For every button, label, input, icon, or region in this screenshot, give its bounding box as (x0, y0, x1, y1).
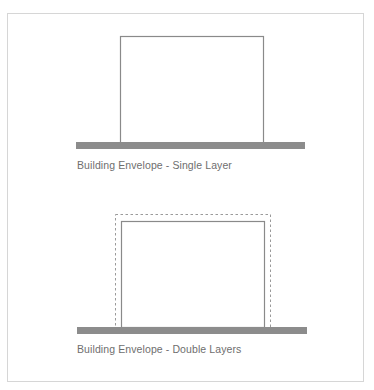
envelope-diagram (0, 0, 374, 390)
panel-single-layer (76, 37, 305, 150)
caption-double-layers: Building Envelope - Double Layers (77, 343, 241, 355)
ground-line (76, 142, 305, 149)
panel-double-layers (77, 215, 307, 335)
building-outline (121, 37, 264, 144)
caption-single-layer: Building Envelope - Single Layer (77, 159, 232, 171)
inner-building-outline (122, 222, 265, 328)
ground-line (77, 327, 307, 334)
